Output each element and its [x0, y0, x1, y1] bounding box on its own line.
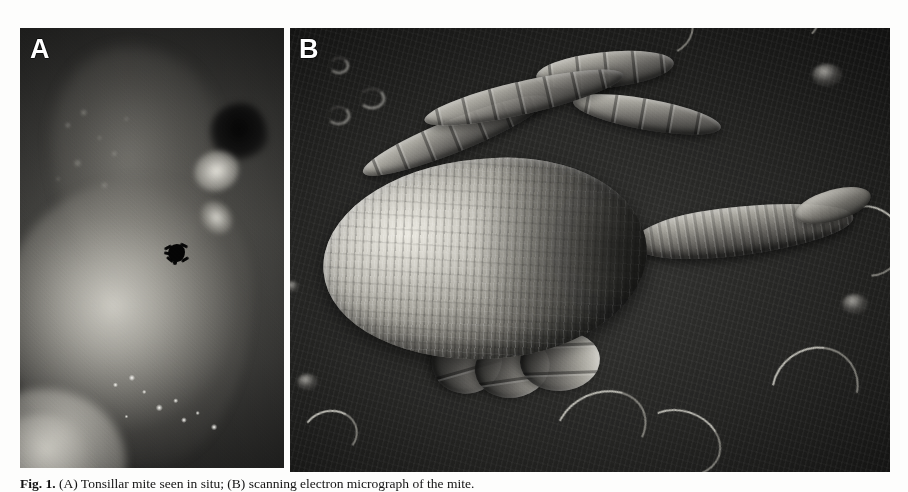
- figure-caption-text: (A) Tonsillar mite seen in situ; (B) sca…: [59, 476, 474, 491]
- film-grain-overlay: [20, 28, 284, 468]
- figure-caption: Fig. 1. (A) Tonsillar mite seen in situ;…: [20, 476, 892, 492]
- panel-a-label: A: [30, 36, 50, 63]
- panel-b-label: B: [299, 36, 319, 63]
- sem-grain-overlay: [290, 28, 890, 472]
- figure-root: A: [0, 0, 908, 492]
- figure-caption-prefix: Fig. 1.: [20, 476, 56, 491]
- figure-panel-b: B: [290, 28, 890, 472]
- figure-panel-a: A: [20, 28, 284, 468]
